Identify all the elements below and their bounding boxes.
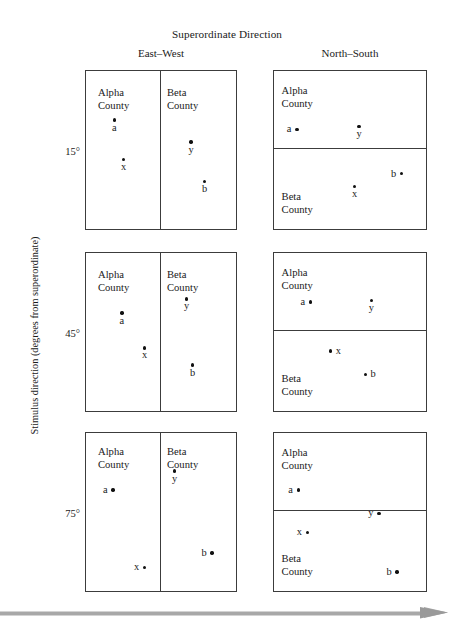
data-point-label: b [371, 369, 376, 379]
figure-title: Superordinate Direction [0, 28, 454, 40]
data-point-marker-icon [295, 128, 298, 131]
panel-divider-vertical [160, 71, 161, 229]
data-point-label: a [287, 124, 292, 134]
county-label-alpha: AlphaCounty [282, 85, 313, 111]
data-point-label: x [134, 562, 139, 572]
data-point-label: y [369, 303, 374, 313]
data-point-marker-icon [297, 488, 300, 491]
data-point-label: y [184, 301, 189, 311]
data-point-marker-icon [395, 570, 398, 573]
county-label-alpha: AlphaCounty [98, 87, 129, 113]
data-point-label: x [142, 350, 147, 360]
data-point-label: x [121, 162, 126, 172]
data-point-label: a [112, 123, 117, 133]
row-tick-15: 15° [36, 146, 80, 157]
county-label-beta: BetaCounty [282, 191, 313, 217]
data-point-label: x [352, 189, 357, 199]
figure-root: Superordinate Direction East–West North–… [0, 0, 454, 622]
data-point-label: a [119, 316, 124, 326]
panel-divider-horizontal [274, 330, 426, 331]
county-label-alpha: AlphaCounty [98, 269, 129, 295]
data-point-label: x [297, 527, 302, 537]
bottom-direction-arrow [0, 600, 454, 620]
county-label-beta: BetaCounty [167, 446, 198, 472]
county-label-beta: BetaCounty [282, 373, 313, 399]
county-label-alpha: AlphaCounty [98, 446, 129, 472]
data-point-label: b [202, 184, 207, 194]
county-label-beta: BetaCounty [167, 87, 198, 113]
data-point-marker-icon [400, 172, 403, 175]
data-point-marker-icon [210, 551, 213, 554]
data-point-label: x [336, 346, 341, 356]
data-point-marker-icon [111, 488, 114, 491]
data-point-label: a [103, 485, 108, 495]
data-point-label: y [188, 145, 193, 155]
county-label-beta: BetaCounty [167, 269, 198, 295]
panel-divider-horizontal [274, 510, 426, 511]
panel-ew_15: AlphaCountyBetaCountyaxyb [85, 70, 237, 230]
data-point-label: b [190, 368, 195, 378]
data-point-marker-icon [306, 531, 309, 534]
panel-ns_75: AlphaCountyBetaCountyayxb [273, 432, 427, 592]
data-point-label: y [357, 129, 362, 139]
data-point-marker-icon [364, 373, 367, 376]
row-tick-75: 75° [36, 508, 80, 519]
county-label-beta: BetaCounty [282, 553, 313, 579]
panel-divider-vertical [160, 433, 161, 591]
data-point-label: b [201, 548, 206, 558]
county-label-alpha: AlphaCounty [282, 447, 313, 473]
panel-divider-vertical [160, 253, 161, 411]
data-point-label: y [368, 508, 373, 518]
column-title-north-south: North–South [273, 47, 427, 59]
data-point-label: b [387, 567, 392, 577]
data-point-marker-icon [377, 512, 380, 515]
data-point-label: a [300, 297, 305, 307]
data-point-label: y [172, 474, 177, 484]
data-point-marker-icon [309, 300, 312, 303]
panel-divider-horizontal [274, 148, 426, 149]
row-tick-45: 45° [36, 328, 80, 339]
county-label-alpha: AlphaCounty [282, 267, 313, 293]
data-point-marker-icon [329, 349, 332, 352]
panel-ew_75: AlphaCountyBetaCountyaxyb [85, 432, 237, 592]
panel-ew_45: AlphaCountyBetaCountyaxyb [85, 252, 237, 412]
data-point-label: b [391, 169, 396, 179]
panel-ns_15: AlphaCountyBetaCountyaybx [273, 70, 427, 230]
data-point-label: a [288, 485, 293, 495]
column-title-east-west: East–West [85, 47, 237, 59]
data-point-marker-icon [143, 566, 146, 569]
panel-ns_45: AlphaCountyBetaCountyayxb [273, 252, 427, 412]
